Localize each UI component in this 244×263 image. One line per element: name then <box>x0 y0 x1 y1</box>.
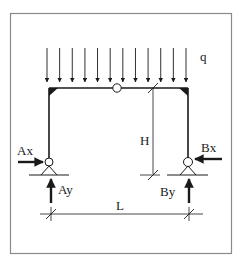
right-support-triangle <box>180 166 196 175</box>
by-label: By <box>160 184 176 199</box>
right-support-hinge <box>184 158 193 167</box>
ax-label: Ax <box>17 143 33 158</box>
left-support: Ax Ay <box>17 143 73 203</box>
frame <box>49 84 188 160</box>
left-support-hinge <box>45 158 53 166</box>
ay-label: Ay <box>58 182 73 197</box>
right-rigid-corner <box>179 88 188 96</box>
bx-label: Bx <box>201 140 217 155</box>
span-label: L <box>116 198 124 213</box>
load-label: q <box>200 49 207 64</box>
left-rigid-corner <box>49 88 58 96</box>
portal-frame-diagram: q H Ax Ay Bx By <box>0 0 244 263</box>
height-dimension: H <box>140 83 160 180</box>
left-support-triangle <box>41 166 57 175</box>
distributed-load <box>47 48 186 82</box>
right-support: Bx By <box>160 140 222 203</box>
diagram-border <box>11 14 232 254</box>
height-label: H <box>140 133 149 148</box>
middle-hinge <box>113 84 121 92</box>
span-dimension: L <box>40 198 203 221</box>
